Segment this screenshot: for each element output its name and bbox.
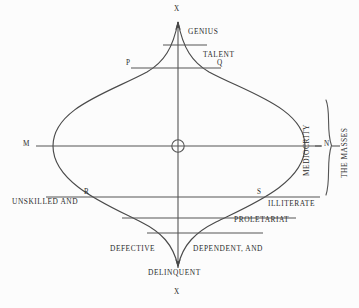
label-unskilled-and: UNSKILLED AND bbox=[12, 198, 78, 205]
label-mediocrity: MEDIOCRITY bbox=[303, 124, 310, 176]
label-delinquent: DELINQUENT bbox=[148, 269, 201, 276]
label-proletariat: PROLETARIAT bbox=[234, 216, 289, 223]
label-illiterate: ILLITERATE bbox=[268, 200, 315, 207]
label-point-r: R bbox=[84, 189, 89, 196]
label-point-p: P bbox=[126, 60, 130, 67]
label-genius: GENIUS bbox=[188, 28, 218, 35]
label-dependent-and: DEPENDENT, AND bbox=[193, 245, 263, 252]
label-point-q: Q bbox=[217, 60, 222, 67]
label-n: N bbox=[324, 141, 329, 148]
label-the-masses: THE MASSES bbox=[341, 128, 348, 178]
label-m: M bbox=[23, 141, 30, 148]
spindle-outline-right bbox=[178, 22, 305, 266]
label-point-s: S bbox=[257, 189, 261, 196]
label-defective: DEFECTIVE bbox=[110, 245, 155, 252]
spindle-outline-left bbox=[53, 22, 178, 266]
label-top-x: X bbox=[174, 6, 179, 13]
label-talent: TALENT bbox=[203, 51, 234, 58]
diagram-canvas: X X M N P Q R S GENIUS TALENT MEDIOCRITY… bbox=[0, 0, 359, 308]
label-bottom-x: X bbox=[174, 289, 179, 296]
